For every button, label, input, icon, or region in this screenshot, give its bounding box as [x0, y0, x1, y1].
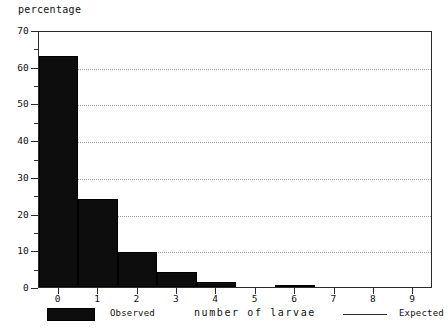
y-axis-tick: [31, 288, 38, 289]
y-axis-tick-label: 30: [17, 172, 29, 183]
x-axis-tick-label: 2: [127, 293, 147, 304]
x-axis-title: number of larvae: [194, 307, 316, 318]
x-axis-tick-label: 7: [324, 293, 344, 304]
y-axis-minor-tick: [34, 196, 38, 197]
y-axis-minor-tick: [34, 123, 38, 124]
legend-label-observed: Observed: [110, 308, 155, 318]
y-axis-tick: [31, 104, 38, 105]
x-axis-tick-label: 8: [363, 293, 383, 304]
x-axis-tick-label: 9: [402, 293, 422, 304]
y-axis-tick-label: 50: [17, 98, 29, 109]
y-axis-tick-label: 70: [17, 25, 29, 36]
y-axis-minor-tick: [34, 86, 38, 87]
x-axis-tick-label: 4: [205, 293, 225, 304]
chart-legend: Observed number of larvae Expected: [0, 306, 448, 328]
y-axis-tick: [31, 178, 38, 179]
y-axis-tick-label: 10: [17, 245, 29, 256]
x-axis-tick-label: 3: [166, 293, 186, 304]
y-axis-tick: [31, 215, 38, 216]
legend-label-expected: Expected: [399, 308, 444, 318]
x-axis-tick-label: 5: [245, 293, 265, 304]
legend-swatch-observed: [47, 308, 95, 321]
y-axis-tick: [31, 31, 38, 32]
plot-area: [38, 31, 432, 288]
y-axis-tick: [31, 251, 38, 252]
y-axis-tick: [31, 68, 38, 69]
line-series-expected: [39, 32, 431, 287]
x-axis-tick-label: 1: [87, 293, 107, 304]
y-axis-tick-label: 0: [23, 282, 29, 293]
x-axis-tick-label: 6: [284, 293, 304, 304]
y-axis-tick: [31, 141, 38, 142]
legend-swatch-expected: [343, 314, 387, 315]
y-axis-minor-tick: [34, 160, 38, 161]
y-axis-minor-tick: [34, 270, 38, 271]
y-axis-title: percentage: [18, 4, 81, 15]
y-axis-tick-label: 20: [17, 209, 29, 220]
y-axis-minor-tick: [34, 49, 38, 50]
y-axis-tick-label: 60: [17, 62, 29, 73]
y-axis-tick-label: 40: [17, 135, 29, 146]
x-axis-tick-label: 0: [48, 293, 68, 304]
histogram-chart: percentage 010203040506070 0123456789 Ob…: [0, 0, 448, 333]
y-axis-minor-tick: [34, 233, 38, 234]
